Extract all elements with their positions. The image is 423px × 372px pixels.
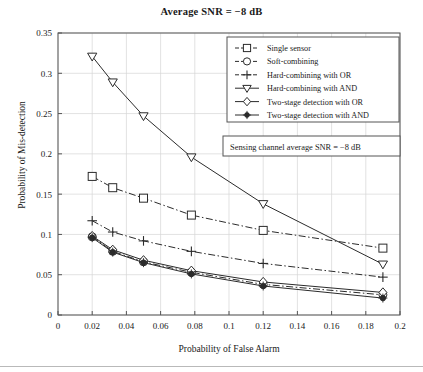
svg-text:0: 0 <box>48 310 53 320</box>
legend-label-1: Soft-combining <box>267 57 318 66</box>
bottom-divider <box>0 366 423 367</box>
svg-text:0.35: 0.35 <box>36 28 52 38</box>
legend-label-5: Two-stage detection with AND <box>267 111 369 120</box>
svg-text:0.1: 0.1 <box>223 321 234 331</box>
svg-text:0.14: 0.14 <box>290 321 306 331</box>
svg-text:0.18: 0.18 <box>358 321 374 331</box>
series-4 <box>88 231 387 297</box>
svg-text:0.16: 0.16 <box>324 321 340 331</box>
svg-text:0.25: 0.25 <box>36 109 52 119</box>
series-0 <box>88 172 387 252</box>
legend-label-0: Single sensor <box>267 44 311 53</box>
svg-text:0: 0 <box>56 321 61 331</box>
legend-label-4: Two-stage detection with OR <box>267 98 364 107</box>
svg-text:0.08: 0.08 <box>187 321 203 331</box>
plot-area: 00.020.040.060.080.10.120.140.160.180.20… <box>0 0 423 372</box>
legend-label-3: Hard-combining with AND <box>267 84 357 93</box>
svg-text:0.02: 0.02 <box>84 321 100 331</box>
svg-text:0.1: 0.1 <box>41 230 52 240</box>
svg-text:0.06: 0.06 <box>153 321 169 331</box>
svg-text:0.12: 0.12 <box>255 321 271 331</box>
series-2 <box>87 216 387 282</box>
legend: Single sensorSoft-combiningHard-combinin… <box>227 37 399 122</box>
svg-text:0.2: 0.2 <box>41 149 52 159</box>
figure-container: Average SNR = −8 dB Probability of Mis-d… <box>0 0 423 372</box>
svg-text:0.3: 0.3 <box>41 69 53 79</box>
annotation-label: Sensing channel average SNR = −8 dB <box>230 143 361 152</box>
svg-text:0.15: 0.15 <box>36 190 52 200</box>
legend-label-2: Hard-combining with OR <box>267 71 352 80</box>
svg-text:0.2: 0.2 <box>394 321 405 331</box>
svg-text:0.04: 0.04 <box>119 321 135 331</box>
svg-text:0.05: 0.05 <box>36 270 52 280</box>
annotation-box: Sensing channel average SNR = −8 dB <box>223 136 400 156</box>
